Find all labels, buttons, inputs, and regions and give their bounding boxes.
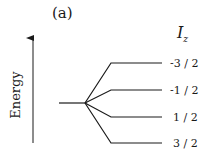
panel-label: (a) xyxy=(52,4,73,22)
level-label: -1 / 2 xyxy=(170,84,198,97)
split-levels xyxy=(85,63,162,143)
level-label: -3 / 2 xyxy=(170,57,198,70)
energy-axis-label: Energy xyxy=(8,71,23,118)
level-label: 3 / 2 xyxy=(173,137,198,150)
level-label: 1 / 2 xyxy=(173,111,198,124)
column-header: Iz xyxy=(177,23,188,44)
